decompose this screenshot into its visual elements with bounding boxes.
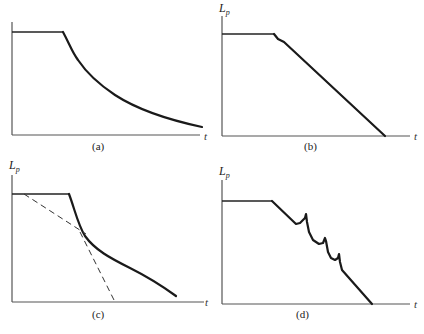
panel-d-x-label: t (414, 298, 418, 310)
panel-d-caption: (d) (296, 308, 309, 321)
panel-c-y-label: Lp (8, 158, 20, 174)
panel-b: Lp t (b) (218, 1, 418, 153)
panel-c: Lp t (c) (8, 158, 209, 321)
panel-c-dashed-fast-asymptote (80, 232, 115, 302)
panel-d-spiked-decay-line (272, 201, 372, 304)
panel-b-caption: (b) (304, 140, 317, 153)
panel-b-y-label: Lp (218, 1, 230, 17)
figure-canvas: t (a) Lp t (b) Lp t (c) Lp t (d) (0, 0, 424, 334)
panel-a: t (a) (12, 22, 208, 153)
panel-c-decay-curve (69, 194, 176, 296)
panel-c-caption: (c) (92, 308, 105, 321)
panel-b-x-label: t (414, 130, 418, 142)
panel-a-caption: (a) (92, 140, 105, 153)
panel-d-y-label: Lp (218, 164, 230, 180)
panel-a-x-label: t (204, 130, 208, 142)
panel-b-decay-line (274, 34, 385, 136)
panel-c-x-label: t (205, 296, 209, 308)
panel-a-decay-curve (63, 32, 202, 127)
panel-d: Lp t (d) (218, 164, 418, 321)
